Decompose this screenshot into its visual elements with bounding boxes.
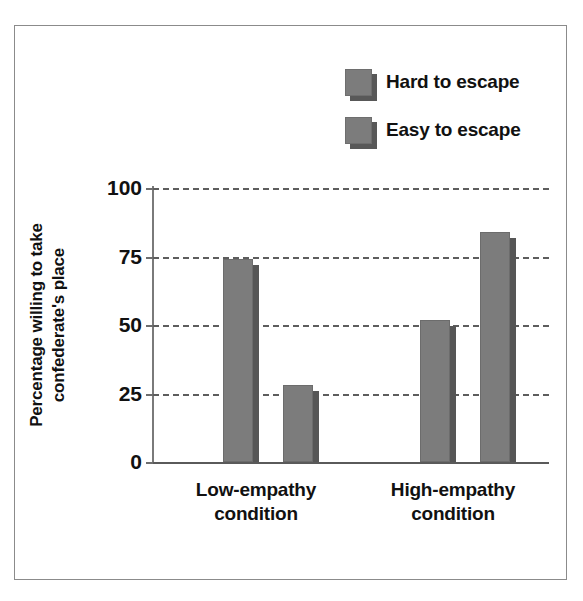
legend-label: Hard to escape [386,71,519,93]
legend-swatch-icon [345,69,372,96]
bar-face [480,232,510,462]
bar-face [420,320,450,462]
bar[interactable] [420,320,450,462]
y-tick-label-25: 25 [94,382,142,406]
bar[interactable] [283,385,313,462]
bar[interactable] [223,259,253,462]
legend-item-easy-to-escape[interactable]: Easy to escape [345,106,555,154]
plot-area [153,188,549,462]
x-axis-label-group-1: Low-empathycondition [166,478,346,526]
y-axis-title-line-1: Percentage willing to take [26,223,48,427]
y-axis-title-line-2: confederate's place [48,223,70,427]
x-axis-label-line-1: High-empathy [363,478,543,502]
x-axis-label-line-2: condition [166,502,346,526]
y-tick-label-50: 50 [94,313,142,337]
x-axis-label-line-2: condition [363,502,543,526]
bar-face [223,259,253,462]
legend-swatch-icon [345,117,372,144]
x-axis-label-group-2: High-empathycondition [363,478,543,526]
bar-face [283,385,313,462]
legend-label: Easy to escape [386,119,521,141]
x-axis-label-line-1: Low-empathy [166,478,346,502]
y-tick-label-100: 100 [94,176,142,200]
y-axis-title: Percentage willing to take confederate's… [18,188,78,462]
chart-figure: Hard to escape Easy to escape Percentage… [0,0,583,601]
chart-legend: Hard to escape Easy to escape [345,58,555,154]
y-tick-mark-0 [146,462,155,464]
gridline-100 [153,188,549,190]
y-tick-label-0: 0 [94,450,142,474]
y-axis-tick-labels: 1007550250 [90,188,142,462]
legend-item-hard-to-escape[interactable]: Hard to escape [345,58,555,106]
y-tick-label-75: 75 [94,245,142,269]
bar[interactable] [480,232,510,462]
x-axis-category-labels: Low-empathyconditionHigh-empathyconditio… [153,478,553,558]
